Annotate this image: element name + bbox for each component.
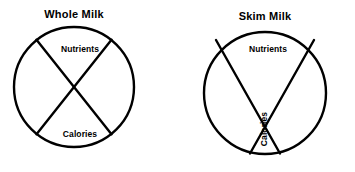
skim-milk-calories-label: Calories xyxy=(259,112,269,147)
whole-milk-calories-label: Calories xyxy=(63,129,98,139)
whole-milk-nutrients-label: Nutrients xyxy=(61,44,99,54)
whole-milk-title: Whole Milk xyxy=(44,8,104,20)
figure-background xyxy=(0,0,355,172)
skim-milk-title: Skim Milk xyxy=(239,10,292,22)
milk-comparison-figure: Whole Milk Nutrients Calories Skim Milk … xyxy=(0,0,355,172)
skim-milk-nutrients-label: Nutrients xyxy=(249,44,287,54)
